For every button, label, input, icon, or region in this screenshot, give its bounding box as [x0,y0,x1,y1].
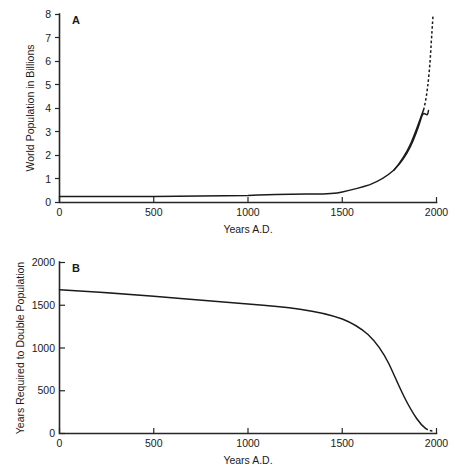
population-figure: 8 7 6 5 4 3 2 1 0 0 500 [0,0,458,473]
panel-a-y-tick-labels: 8 7 6 5 4 3 2 1 0 [45,8,51,208]
panel-b-xtick-500: 500 [145,437,163,449]
panel-a-xlabel: Years A.D. [223,223,272,235]
panel-b-xtick-2000: 2000 [425,437,449,449]
panel-a-ytick-8: 8 [45,8,51,20]
panel-a-ytick-5: 5 [45,79,51,91]
panel-a-xtick-0: 0 [57,206,63,218]
panel-b-xtick-1000: 1000 [236,437,260,449]
panel-a-xtick-1500: 1500 [331,206,355,218]
panel-a-xtick-1000: 1000 [236,206,260,218]
panel-b-letter: B [72,262,80,274]
panel-a-ytick-0: 0 [45,196,51,208]
panel-b-xtick-0: 0 [57,437,63,449]
panel-a-ytick-3: 3 [45,126,51,138]
panel-b-ytick-2000: 2000 [32,256,56,268]
panel-a-xtick-2000: 2000 [425,206,449,218]
panel-a-ytick-4: 4 [45,102,51,114]
panel-b-ytick-1500: 1500 [32,299,56,311]
panel-b-ytick-0: 0 [49,427,55,439]
panel-a-ylabel: World Population in Billions [24,44,36,171]
panel-a-letter: A [72,14,80,26]
panel-b-xtick-1500: 1500 [331,437,355,449]
panel-a-ytick-1: 1 [45,173,51,185]
panel-b-xlabel: Years A.D. [223,454,272,466]
panel-a-ytick-7: 7 [45,32,51,44]
figure-canvas: 8 7 6 5 4 3 2 1 0 0 500 [0,0,458,473]
figure-background [0,0,458,473]
panel-b-ylabel: Years Required to Double Population [14,262,26,435]
panel-a-ytick-2: 2 [45,149,51,161]
panel-b-ytick-500: 500 [37,384,55,396]
panel-a-ytick-6: 6 [45,55,51,67]
panel-b-ytick-1000: 1000 [32,342,56,354]
panel-a-xtick-500: 500 [145,206,163,218]
